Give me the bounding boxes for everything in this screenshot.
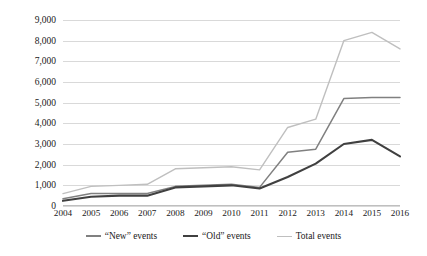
x-axis-tick-label: 2010 (222, 208, 240, 218)
legend-label: Total events (296, 231, 341, 241)
x-axis-tick-label: 2016 (391, 208, 409, 218)
chart-legend: “New” events“Old” eventsTotal events (0, 231, 427, 241)
gridline (63, 206, 400, 207)
legend-swatch-icon (277, 236, 292, 237)
series-line-new (63, 98, 400, 199)
y-axis-tick-label: 3,000 (0, 139, 56, 149)
plot-area (63, 20, 400, 206)
legend-label: “New” events (105, 231, 157, 241)
x-axis-tick-label: 2008 (166, 208, 184, 218)
legend-item[interactable]: Total events (277, 231, 341, 241)
y-axis-tick-label: 9,000 (0, 15, 56, 25)
y-axis-tick-label: 1,000 (0, 180, 56, 190)
legend-item[interactable]: “Old” events (183, 231, 251, 241)
x-axis-tick-label: 2015 (363, 208, 381, 218)
y-axis-tick-label: 2,000 (0, 160, 56, 170)
y-axis-tick-label: 5,000 (0, 98, 56, 108)
x-axis-tick-label: 2004 (54, 208, 72, 218)
series-line-old (63, 140, 400, 201)
y-axis-tick-label: 7,000 (0, 56, 56, 66)
x-axis-tick-label: 2009 (194, 208, 212, 218)
series-line-total (63, 32, 400, 193)
x-axis-tick-label: 2005 (82, 208, 100, 218)
legend-item[interactable]: “New” events (86, 231, 157, 241)
x-axis-tick-label: 2011 (251, 208, 269, 218)
y-axis-tick-label: 8,000 (0, 36, 56, 46)
x-axis-tick-label: 2014 (335, 208, 353, 218)
series-lines (63, 20, 400, 206)
x-axis-tick-label: 2013 (307, 208, 325, 218)
x-axis-tick-label: 2006 (110, 208, 128, 218)
line-chart: 9,0008,0007,0006,0005,0004,0003,0002,000… (0, 0, 427, 256)
y-axis-tick-label: 4,000 (0, 118, 56, 128)
legend-swatch-icon (183, 235, 198, 237)
x-axis-tick-label: 2007 (138, 208, 156, 218)
y-axis-tick-label: 6,000 (0, 77, 56, 87)
legend-label: “Old” events (202, 231, 251, 241)
legend-swatch-icon (86, 235, 101, 237)
y-axis-tick-label: 0 (0, 201, 56, 211)
x-axis-tick-label: 2012 (278, 208, 296, 218)
